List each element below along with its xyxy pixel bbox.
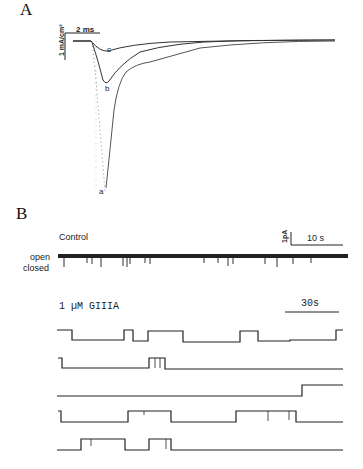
state-label-closed: closed bbox=[23, 263, 49, 273]
trace-label-b: b bbox=[105, 84, 109, 93]
panel-a-traces bbox=[73, 40, 335, 192]
control-trace bbox=[58, 254, 348, 267]
drug-time-scale-label: 30s bbox=[301, 298, 319, 309]
panel-b-letter: B bbox=[16, 204, 27, 224]
trace-label-a: a bbox=[99, 187, 103, 196]
control-time-scale-label: 10 s bbox=[307, 233, 324, 243]
drug-sweeps bbox=[57, 330, 343, 450]
control-current-scale-label: 1pA bbox=[281, 230, 288, 243]
state-label-open: open bbox=[30, 252, 50, 262]
panel-a-scale-bar bbox=[65, 33, 100, 60]
trace-label-c: c bbox=[107, 45, 111, 54]
drug-title: 1 µM GIIIA bbox=[59, 301, 119, 312]
control-title: Control bbox=[59, 232, 88, 242]
